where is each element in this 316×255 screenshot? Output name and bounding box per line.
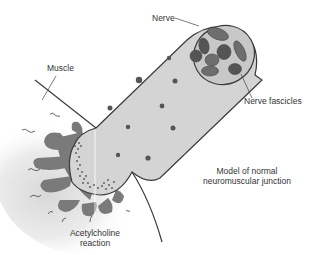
pointer-line-nerve xyxy=(175,18,199,26)
label-muscle: Muscle xyxy=(47,63,74,73)
neuromuscular-junction-diagram xyxy=(0,0,316,255)
label-model-line1: Model of normal xyxy=(186,166,308,176)
pointer-line-muscle xyxy=(42,76,56,100)
label-model-caption: Model of normal neuromuscular junction xyxy=(186,166,308,186)
label-model-line2: neuromuscular junction xyxy=(186,176,308,186)
label-ach-line2: reaction xyxy=(50,238,140,248)
label-acetylcholine: Acetylcholine reaction xyxy=(50,228,140,248)
label-nerve: Nerve xyxy=(152,13,175,23)
label-ach-line1: Acetylcholine xyxy=(50,228,140,238)
label-nerve-fascicles: Nerve fascicles xyxy=(244,96,302,106)
